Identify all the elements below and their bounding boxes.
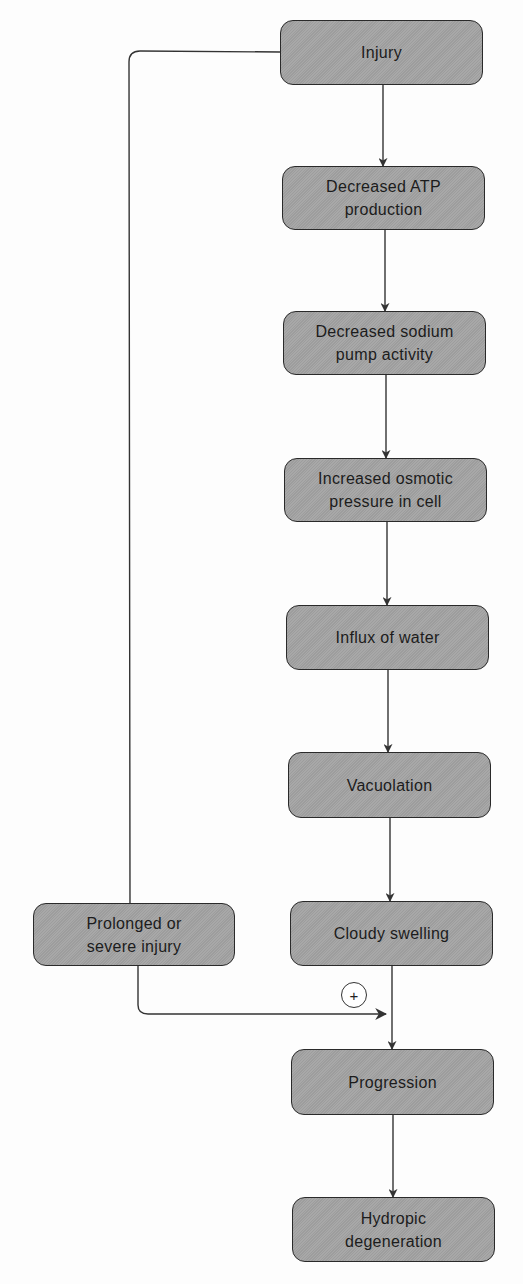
node-label: Progression	[348, 1071, 437, 1094]
node-label: Prolonged or severe injury	[69, 912, 199, 958]
node-decreased-atp-production: Decreased ATP production	[282, 166, 485, 230]
node-injury: Injury	[280, 20, 483, 85]
node-label: Increased osmotic pressure in cell	[296, 467, 476, 513]
node-prolonged-or-severe-injury: Prolonged or severe injury	[33, 903, 235, 966]
node-label: Injury	[361, 41, 402, 64]
node-vacuolation: Vacuolation	[288, 752, 491, 818]
node-increased-osmotic-pressure: Increased osmotic pressure in cell	[284, 458, 487, 522]
node-decreased-sodium-pump-activity: Decreased sodium pump activity	[283, 311, 486, 375]
node-label: Vacuolation	[347, 774, 433, 797]
node-label: Influx of water	[335, 626, 439, 649]
line-injury-to-prolonged	[129, 51, 280, 903]
node-label: Cloudy swelling	[334, 922, 450, 945]
node-label: Decreased sodium pump activity	[295, 320, 475, 366]
node-label: Decreased ATP production	[309, 175, 459, 221]
node-label: Hydropic degeneration	[329, 1207, 459, 1253]
node-progression: Progression	[291, 1049, 494, 1115]
node-hydropic-degeneration: Hydropic degeneration	[292, 1197, 495, 1262]
node-cloudy-swelling: Cloudy swelling	[290, 901, 493, 966]
flowchart-canvas: Injury Decreased ATP production Decrease…	[0, 0, 523, 1284]
node-influx-of-water: Influx of water	[286, 605, 489, 670]
plus-icon: +	[341, 982, 367, 1008]
